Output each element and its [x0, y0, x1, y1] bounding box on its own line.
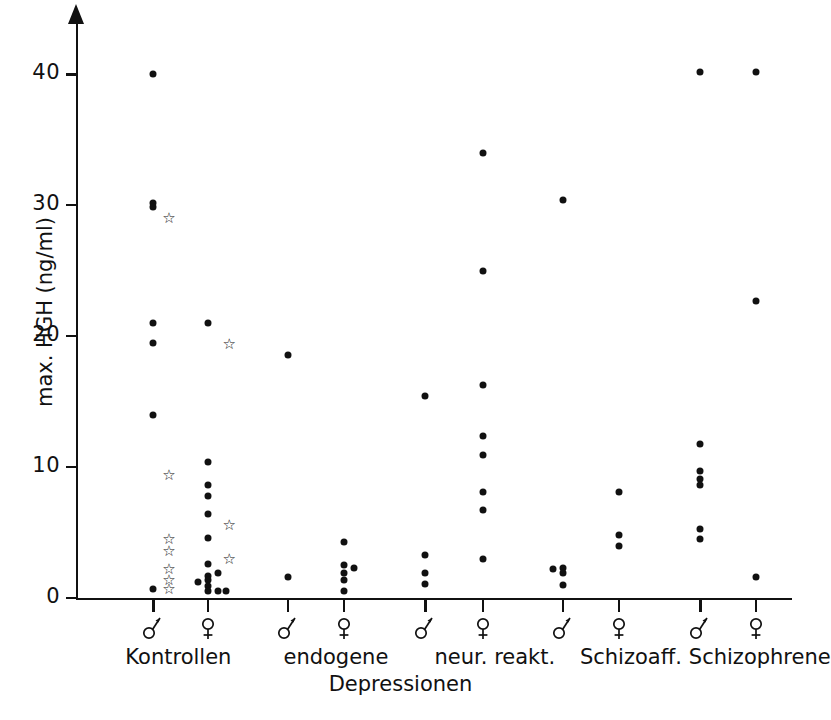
data-point-dot: [284, 574, 291, 581]
x-axis-tick: [424, 600, 426, 612]
y-axis-tick: [66, 73, 77, 75]
data-point-dot: [204, 534, 211, 541]
data-point-star: ☆: [222, 517, 235, 532]
data-point-dot: [479, 488, 486, 495]
x-axis-tick: [482, 600, 484, 612]
male-symbol-icon: [680, 612, 720, 646]
data-point-dot: [150, 585, 157, 592]
data-point-dot: [753, 68, 760, 75]
data-point-dot: [150, 71, 157, 78]
x-axis-tick: [343, 600, 345, 612]
x-axis-title: Depressionen: [0, 672, 801, 696]
y-axis-arrow-icon: [68, 4, 84, 24]
y-axis-tick-label: 10: [14, 453, 60, 477]
x-axis-tick: [287, 600, 289, 612]
data-point-dot: [697, 482, 704, 489]
data-point-dot: [697, 68, 704, 75]
x-axis-tick: [755, 600, 757, 612]
data-point-dot: [204, 588, 211, 595]
data-point-dot: [214, 588, 221, 595]
data-point-dot: [559, 570, 566, 577]
y-axis-tick: [66, 466, 77, 468]
data-point-dot: [204, 560, 211, 567]
male-symbol-icon: [133, 612, 173, 646]
data-point-dot: [697, 468, 704, 475]
data-point-star: ☆: [162, 581, 175, 596]
data-point-dot: [697, 525, 704, 532]
male-symbol-icon: [268, 612, 308, 646]
data-point-star: ☆: [222, 337, 235, 352]
data-point-dot: [340, 562, 347, 569]
female-symbol-icon: [188, 612, 228, 646]
data-point-star: ☆: [222, 551, 235, 566]
data-point-dot: [214, 570, 221, 577]
y-axis-tick: [66, 335, 77, 337]
data-point-dot: [697, 440, 704, 447]
data-point-dot: [697, 536, 704, 543]
data-point-star: ☆: [162, 543, 175, 558]
data-point-dot: [194, 579, 201, 586]
data-point-dot: [479, 555, 486, 562]
data-point-dot: [204, 320, 211, 327]
x-axis-line: [76, 598, 792, 600]
female-symbol-icon: [599, 612, 639, 646]
data-point-dot: [204, 492, 211, 499]
y-axis-tick-label: 20: [14, 322, 60, 346]
y-axis-tick-label: 30: [14, 191, 60, 215]
x-axis-tick: [562, 600, 564, 612]
x-axis-tick: [699, 600, 701, 612]
x-axis-group-label: neur. reakt.: [435, 645, 556, 669]
data-point-dot: [422, 393, 429, 400]
y-axis-title: max. HGH (ng/ml): [33, 187, 57, 437]
data-point-dot: [150, 339, 157, 346]
data-point-dot: [284, 351, 291, 358]
data-point-dot: [615, 488, 622, 495]
data-point-dot: [340, 538, 347, 545]
data-point-dot: [340, 576, 347, 583]
x-axis-group-label: Schizophrene: [689, 645, 831, 669]
x-axis-tick: [618, 600, 620, 612]
male-symbol-icon: [405, 612, 445, 646]
data-point-dot: [479, 381, 486, 388]
data-point-dot: [753, 574, 760, 581]
data-point-dot: [204, 511, 211, 518]
data-point-dot: [350, 564, 357, 571]
data-point-dot: [150, 411, 157, 418]
x-axis-group-label: endogene: [283, 645, 388, 669]
female-symbol-icon: [463, 612, 503, 646]
data-point-dot: [615, 532, 622, 539]
x-axis-group-label: Kontrollen: [125, 645, 231, 669]
data-point-dot: [753, 297, 760, 304]
x-axis-tick: [207, 600, 209, 612]
data-point-dot: [422, 580, 429, 587]
y-axis-line: [76, 22, 78, 600]
y-axis-tick: [66, 204, 77, 206]
male-symbol-icon: [543, 612, 583, 646]
y-axis-tick: [66, 597, 77, 599]
female-symbol-icon: [324, 612, 364, 646]
data-point-dot: [150, 320, 157, 327]
data-point-dot: [615, 542, 622, 549]
x-axis-tick: [152, 600, 154, 612]
data-point-dot: [479, 267, 486, 274]
y-axis-tick-label: 0: [14, 584, 60, 608]
data-point-dot: [479, 149, 486, 156]
female-symbol-icon: [736, 612, 776, 646]
y-axis-tick-label: 40: [14, 60, 60, 84]
data-point-dot: [204, 458, 211, 465]
data-point-star: ☆: [162, 467, 175, 482]
data-point-star: ☆: [162, 211, 175, 226]
data-point-dot: [479, 432, 486, 439]
data-point-dot: [422, 551, 429, 558]
data-point-dot: [204, 482, 211, 489]
data-point-dot: [479, 452, 486, 459]
data-point-dot: [150, 203, 157, 210]
x-axis-group-label: Schizoaff.: [580, 645, 682, 669]
data-point-dot: [223, 588, 230, 595]
data-point-dot: [549, 566, 556, 573]
data-point-dot: [559, 581, 566, 588]
data-point-dot: [479, 507, 486, 514]
data-point-dot: [340, 588, 347, 595]
data-point-dot: [559, 197, 566, 204]
